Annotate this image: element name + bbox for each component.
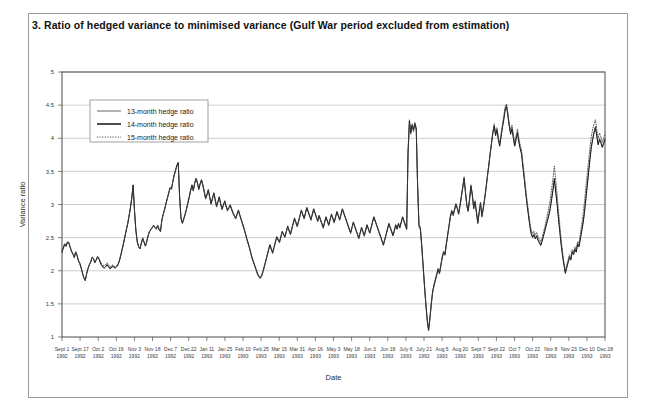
- x-tick-label-year: 1993: [418, 353, 429, 359]
- x-tick-label-date: Oct 22: [525, 346, 540, 352]
- x-tick-label-date: Aug 20: [452, 346, 468, 352]
- x-tick-label-year: 1993: [310, 353, 321, 359]
- x-tick-label-year: 1993: [219, 353, 230, 359]
- x-tick-label-year: 1993: [563, 353, 574, 359]
- x-tick-label-date: Feb 25: [253, 346, 269, 352]
- x-tick-label-date: Mar 15: [271, 346, 287, 352]
- x-tick-label-year: 1992: [111, 353, 122, 359]
- x-tick-label-date: Dec 28: [597, 346, 613, 352]
- x-tick-label-year: 1993: [346, 353, 357, 359]
- x-tick-label-year: 1993: [455, 353, 466, 359]
- x-tick-label-year: 1993: [400, 353, 411, 359]
- y-tick-label: 2.5: [46, 235, 55, 241]
- x-tick-label-year: 1992: [165, 353, 176, 359]
- y-tick-label: 1.5: [46, 301, 55, 307]
- x-tick-label-year: 1993: [509, 353, 520, 359]
- y-tick-label: 4.5: [46, 102, 55, 108]
- x-tick-label-date: Sept 1: [55, 346, 70, 352]
- x-tick-label-year: 1993: [599, 353, 610, 359]
- y-tick-label: 1: [51, 334, 55, 340]
- x-tick-label-date: Sept 22: [488, 346, 505, 352]
- x-tick-label-date: Aug 5: [436, 346, 449, 352]
- x-tick-label-year: 1993: [256, 353, 267, 359]
- x-tick-label-date: Jan 11: [199, 346, 214, 352]
- x-tick-label-year: 1992: [183, 353, 194, 359]
- x-tick-label-date: Mar 31: [290, 346, 306, 352]
- x-tick-label-year: 1993: [201, 353, 212, 359]
- x-tick-label-year: 1993: [527, 353, 538, 359]
- y-tick-label: 5: [51, 69, 55, 75]
- x-tick-label-date: Sept 17: [71, 346, 88, 352]
- x-tick-label-date: Oct 19: [109, 346, 124, 352]
- x-tick-label-date: Oct 7: [509, 346, 521, 352]
- x-tick-label-year: 1993: [274, 353, 285, 359]
- x-tick-label-date: Jan 25: [217, 346, 232, 352]
- x-tick-label-year: 1993: [364, 353, 375, 359]
- x-tick-label-date: July 6: [399, 346, 412, 352]
- x-tick-label-date: Sept 7: [471, 346, 486, 352]
- x-tick-label-year: 1993: [328, 353, 339, 359]
- legend-label-1: 13-month hedge ratio: [127, 108, 194, 116]
- chart-canvas: 11.522.533.544.55 Sept 11992Sept 171992O…: [0, 0, 645, 418]
- x-tick-label-year: 1992: [147, 353, 158, 359]
- x-tick-label-year: 1993: [237, 353, 248, 359]
- x-tick-label-date: Apr 16: [308, 346, 323, 352]
- x-tick-label-date: Nov 18: [145, 346, 161, 352]
- y-tick-label: 3.5: [46, 169, 55, 175]
- x-tick-label-year: 1993: [292, 353, 303, 359]
- x-tick-label-year: 1993: [581, 353, 592, 359]
- x-tick-label-year: 1993: [491, 353, 502, 359]
- x-tick-label-date: Nov 3: [128, 346, 141, 352]
- legend-label-2: 14-month hedge ratio: [127, 121, 194, 129]
- y-tick-label: 4: [51, 135, 55, 141]
- x-axis-title: Date: [326, 373, 342, 382]
- x-tick-label-year: 1993: [437, 353, 448, 359]
- x-tick-label-date: Oct 2: [92, 346, 104, 352]
- legend-label-3: 15-month hedge ratio: [127, 134, 194, 142]
- x-tick-label-date: May 3: [327, 346, 341, 352]
- x-tick-label-date: Feb 10: [235, 346, 251, 352]
- x-tick-label-date: Nov 8: [544, 346, 557, 352]
- x-tick-label-year: 1992: [129, 353, 140, 359]
- x-tick-label-date: May 18: [343, 346, 360, 352]
- y-axis-title: Variance ratio: [18, 182, 27, 228]
- x-tick-label-date: July 21: [416, 346, 432, 352]
- x-tick-label-year: 1992: [56, 353, 67, 359]
- x-tick-label-date: Dec 7: [164, 346, 177, 352]
- y-axis-ticks: 11.522.533.544.55: [46, 69, 62, 340]
- x-tick-label-date: Jun 18: [380, 346, 395, 352]
- x-tick-label-year: 1992: [93, 353, 104, 359]
- x-tick-label-date: Dec 22: [181, 346, 197, 352]
- x-axis-ticks: Sept 11992Sept 171992Oct 21992Oct 191992…: [55, 337, 613, 359]
- x-tick-label-year: 1993: [545, 353, 556, 359]
- x-tick-label-year: 1993: [473, 353, 484, 359]
- x-tick-label-date: Dec 10: [579, 346, 595, 352]
- y-tick-label: 3: [51, 202, 55, 208]
- chart-legend[interactable]: 13-month hedge ratio14-month hedge ratio…: [90, 100, 208, 142]
- x-tick-label-year: 1993: [382, 353, 393, 359]
- x-tick-label-year: 1992: [75, 353, 86, 359]
- x-tick-label-date: Jun 3: [364, 346, 376, 352]
- variance-ratio-line-chart: 11.522.533.544.55 Sept 11992Sept 171992O…: [0, 0, 645, 418]
- x-tick-label-date: Nov 23: [561, 346, 577, 352]
- y-tick-label: 2: [51, 268, 55, 274]
